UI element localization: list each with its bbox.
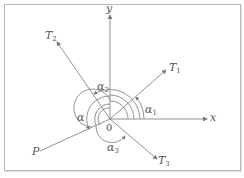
- label-alpha: α: [77, 112, 84, 123]
- origin-label: 0: [106, 123, 112, 133]
- label-p: P: [32, 146, 39, 157]
- label-alpha3: α3: [107, 142, 119, 155]
- ray-t1: [110, 70, 166, 119]
- label-t1: T1: [169, 62, 181, 75]
- y-axis-label: y: [106, 3, 112, 14]
- x-axis-label: x: [210, 112, 216, 123]
- label-alpha2: α2: [97, 81, 109, 94]
- label-alpha1: α1: [145, 104, 157, 117]
- label-t2: T2: [45, 30, 57, 43]
- label-t3: T3: [158, 155, 170, 168]
